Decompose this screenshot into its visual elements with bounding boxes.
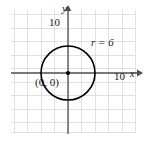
x-axis-tick-label: 10 xyxy=(114,71,125,82)
y-axis xyxy=(65,5,72,134)
x-axis-label: x xyxy=(130,69,134,79)
radius-annotation: r = 6 xyxy=(91,37,114,48)
y-axis-label: y xyxy=(62,3,67,14)
circle-graph-figure: y 10 10 x r = 6 (0, 0) xyxy=(0,0,145,143)
origin-point xyxy=(66,71,70,75)
x-axis-arrow-icon xyxy=(137,70,143,77)
y-axis-tick-label: 10 xyxy=(49,17,60,28)
origin-annotation: (0, 0) xyxy=(35,77,59,88)
